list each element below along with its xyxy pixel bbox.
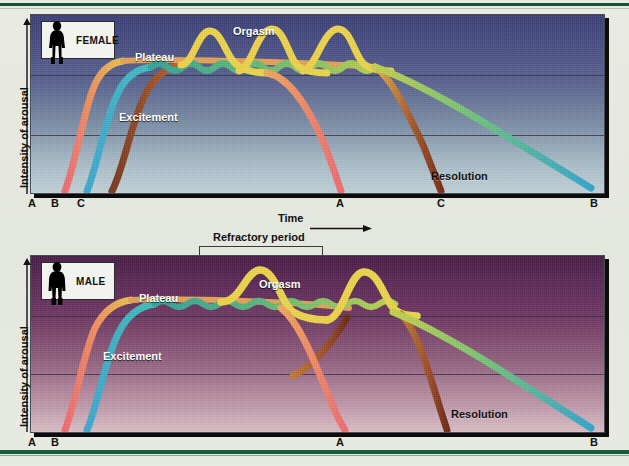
male-label-resolution: Resolution [451,408,508,420]
female-y-axis-label: Intensity of arousal [18,87,30,188]
female-chart-panel: FEMALE Plateau Orgasm Excitement Resolut… [30,14,605,194]
female-xtick-c1: C [77,197,85,209]
male-y-axis-label: Intensity of arousal [18,326,30,427]
female-badge-label: FEMALE [76,35,119,46]
male-xtick-a1: A [28,436,36,448]
female-xtick-b2: B [590,197,598,209]
male-label-orgasm: Orgasm [259,278,301,290]
male-curves-svg [31,256,605,433]
female-label-orgasm: Orgasm [233,25,275,37]
male-label-excitement: Excitement [103,350,162,362]
female-xtick-a2: A [336,197,344,209]
female-plot-area: FEMALE Plateau Orgasm Excitement Resolut… [30,14,605,194]
refractory-period-bracket [199,246,323,255]
female-badge: FEMALE [41,21,115,59]
bottom-rule-secondary [0,455,629,456]
male-plot-area: MALE Plateau Orgasm Excitement Resolutio… [30,255,605,433]
female-label-resolution: Resolution [431,170,488,182]
figure-page: FEMALE Plateau Orgasm Excitement Resolut… [0,0,629,466]
male-silhouette-icon [42,263,72,299]
female-label-plateau: Plateau [135,51,174,63]
female-xtick-b1: B [51,197,59,209]
female-xtick-c2: C [437,197,445,209]
female-xtick-a1: A [28,197,36,209]
male-chart-panel: MALE Plateau Orgasm Excitement Resolutio… [30,255,605,433]
female-label-excitement: Excitement [119,111,178,123]
male-pink-descent-curve [281,308,345,430]
male-xtick-b2: B [590,436,598,448]
bottom-rule [0,450,629,454]
male-xtick-a2: A [336,436,344,448]
male-badge-label: MALE [76,276,106,287]
time-axis-arrow [310,219,372,237]
refractory-period-label: Refractory period [213,231,305,243]
male-badge: MALE [41,262,115,300]
male-xtick-b1: B [51,436,59,448]
female-pink-resolution-curve [267,73,341,191]
time-axis-label: Time [278,212,303,224]
male-pink-excitement-curve [65,300,131,430]
top-rule [0,3,629,6]
top-rule-secondary [0,8,629,9]
male-label-plateau: Plateau [139,292,178,304]
female-silhouette-icon [42,22,72,58]
